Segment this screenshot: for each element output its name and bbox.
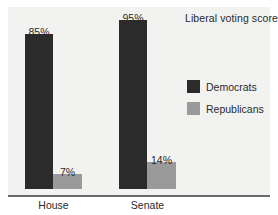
chart-screenshot: Liberal voting score 85% 7% 95% 14% Demo… [0,0,278,215]
legend-item-democrats: Democrats [187,78,264,95]
legend-label-democrats: Democrats [206,81,257,93]
bar-value-house-republicans: 7% [53,166,82,178]
legend-swatch-democrats [187,80,200,93]
x-axis-label-senate: Senate [119,199,176,211]
x-axis-line [8,195,270,197]
bar-senate-republicans [147,162,176,189]
legend-item-republicans: Republicans [187,100,264,117]
bar-value-senate-republicans: 14% [147,154,176,166]
bar-value-house-democrats: 85% [25,26,53,38]
legend-label-republicans: Republicans [206,103,264,115]
legend-swatch-republicans [187,102,200,115]
chart-legend: Democrats Republicans [187,78,264,122]
bar-senate-democrats [119,20,147,189]
x-axis-label-house: House [25,199,82,211]
bar-house-democrats [25,34,53,189]
bar-value-senate-democrats: 95% [119,12,147,24]
